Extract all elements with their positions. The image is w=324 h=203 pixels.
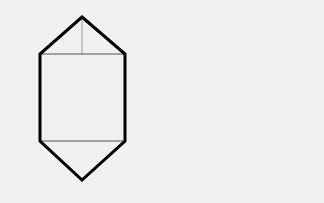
hexagon-figure	[0, 0, 324, 203]
diagram-canvas	[0, 0, 324, 203]
